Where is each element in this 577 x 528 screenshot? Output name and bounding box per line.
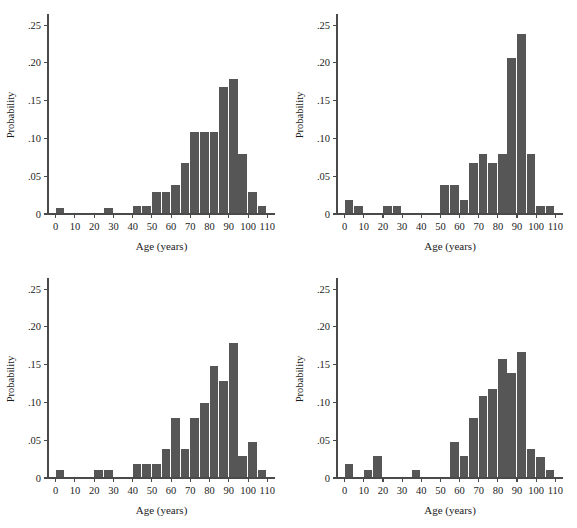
histogram-bar [162,192,171,214]
y-axis-title: Probability [294,355,305,402]
chart-bottom-right: 0.05.10.15.20.25010203040506070809010011… [289,264,577,528]
histogram-bar [56,208,65,214]
histogram-bar [190,418,199,478]
y-tick-label: .10 [317,133,330,144]
histogram-bar [498,154,507,214]
histogram-bar [546,470,555,478]
x-tick-label: 30 [397,485,408,496]
y-axis-title: Probability [5,355,16,402]
histogram-bar [133,464,142,478]
x-tick-label: 60 [166,485,177,496]
x-tick-label: 60 [166,221,177,232]
histogram-bar [142,206,151,214]
histogram-bar [469,418,478,478]
histogram-bar [56,470,65,478]
x-axis-title: Age (years) [424,240,476,253]
x-tick-label: 90 [224,485,235,496]
x-axis-title: Age (years) [424,504,476,517]
x-tick-label: 70 [473,221,484,232]
histogram-bar [412,470,421,478]
histogram-bar [133,206,142,214]
x-tick-label: 10 [70,485,81,496]
x-tick-label: 70 [185,221,196,232]
y-tick-label: .05 [28,435,41,446]
x-tick-label: 0 [53,221,58,232]
histogram-bar [94,470,103,478]
histogram-bar [345,200,354,214]
x-tick-label: 110 [548,221,563,232]
histogram-bar [393,206,402,214]
y-tick-label: .20 [28,321,41,332]
x-tick-label: 80 [204,221,215,232]
histogram-bar [181,163,190,214]
x-tick-label: 70 [473,485,484,496]
histogram-bar [200,403,209,478]
x-tick-label: 30 [108,485,119,496]
y-tick-label: .10 [28,397,41,408]
x-tick-label: 80 [493,221,504,232]
x-axis-title: Age (years) [136,240,188,253]
x-tick-label: 110 [260,221,275,232]
histogram-bar [219,87,228,214]
x-tick-label: 90 [512,485,523,496]
x-tick-label: 20 [89,485,100,496]
panel-top-left: 0.05.10.15.20.25010203040506070809010011… [0,0,289,264]
histogram-bar [488,163,497,214]
x-tick-label: 50 [147,221,158,232]
histogram-bar [238,154,247,214]
x-tick-label: 70 [185,485,196,496]
y-tick-label: .05 [317,171,330,182]
histogram-figure: 0.05.10.15.20.25010203040506070809010011… [0,0,577,528]
x-tick-label: 80 [204,485,215,496]
chart-bottom-left: 0.05.10.15.20.25010203040506070809010011… [0,264,289,528]
histogram-bar [219,381,228,478]
x-tick-label: 20 [378,485,389,496]
x-axis-title: Age (years) [136,504,188,517]
y-tick-label: .20 [28,57,41,68]
histogram-bar [354,206,363,214]
histogram-bar [162,449,171,478]
histogram-bar [210,366,219,478]
y-tick-label: .15 [317,95,330,106]
y-tick-label: .05 [28,171,41,182]
histogram-bar [517,34,526,214]
histogram-bar [238,456,247,478]
histogram-bar [383,206,392,214]
histogram-bar [190,132,199,214]
y-tick-label: .10 [28,133,41,144]
y-tick-label: .20 [317,57,330,68]
y-tick-label: .15 [28,95,41,106]
histogram-bar [507,58,516,214]
histogram-bar [229,343,238,478]
y-axis-title: Probability [5,91,16,138]
histogram-bar [460,200,469,214]
histogram-bar [460,456,469,478]
x-tick-label: 50 [435,221,446,232]
panel-bottom-left: 0.05.10.15.20.25010203040506070809010011… [0,264,289,528]
x-tick-label: 40 [127,221,138,232]
x-tick-label: 10 [359,221,370,232]
histogram-bar [345,464,354,478]
x-tick-label: 60 [454,485,465,496]
histogram-bar [364,470,373,478]
x-tick-label: 0 [342,485,347,496]
histogram-bar [248,442,257,478]
y-tick-label: .20 [317,321,330,332]
y-tick-label: .15 [317,359,330,370]
histogram-bar [450,442,459,478]
histogram-bar [258,470,267,478]
x-tick-label: 40 [416,221,427,232]
x-tick-label: 110 [260,485,275,496]
histogram-bar [440,185,449,214]
histogram-bar [536,457,545,478]
x-tick-label: 20 [378,221,389,232]
histogram-bar [181,449,190,478]
x-tick-label: 110 [548,485,563,496]
x-tick-label: 30 [397,221,408,232]
histogram-bar [488,389,497,478]
histogram-bar [450,185,459,214]
histogram-bar [171,185,180,214]
histogram-bar [527,449,536,478]
y-tick-label: 0 [325,473,330,484]
y-tick-label: 0 [325,209,330,220]
